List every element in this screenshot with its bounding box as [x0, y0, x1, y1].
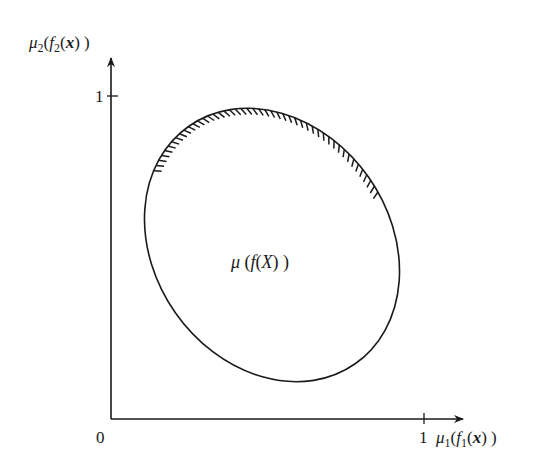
hatch-mark	[364, 175, 367, 182]
x-axis	[111, 413, 463, 424]
feasible-region	[92, 59, 452, 432]
hatch-mark	[175, 138, 183, 141]
hatch-mark	[367, 180, 371, 187]
hatch-mark	[323, 133, 324, 141]
hatch-mark	[343, 149, 344, 157]
hatch-mark	[184, 130, 191, 133]
hatch-mark	[213, 114, 219, 119]
y-axis-tick-label: 1	[95, 87, 104, 106]
hatch-mark	[224, 111, 230, 116]
hatch-mark	[188, 127, 195, 131]
hatch-mark	[373, 192, 378, 199]
hatch-mark	[229, 110, 235, 116]
hatch-mark	[352, 159, 354, 167]
hatch-mark	[179, 134, 187, 137]
hatch-mark	[159, 160, 167, 161]
hatch-mark	[172, 142, 180, 144]
hatch-mark	[208, 116, 215, 121]
hatch-mark	[360, 169, 363, 177]
hatch-mark	[165, 151, 173, 153]
hatch-mark	[318, 129, 319, 137]
hatch-mark	[198, 121, 205, 125]
hatch-mark	[193, 124, 200, 128]
hatch-mark	[168, 146, 176, 148]
hatch-mark	[356, 164, 359, 172]
hatch-mark	[241, 109, 246, 115]
hatch-mark	[162, 155, 170, 156]
membership-space-diagram: 0 1 1 μ2(f2(x) ) μ1(f1(x) ) μ (f(X) )	[0, 0, 550, 475]
x-axis-tick-label: 1	[419, 428, 428, 447]
region-boundary	[92, 59, 452, 432]
origin-label: 0	[96, 428, 105, 447]
hatch-mark	[370, 186, 374, 193]
y-axis-label: μ2(f2(x) )	[28, 33, 90, 55]
region-label: μ (f(X) )	[230, 252, 289, 273]
hatch-mark	[218, 112, 224, 117]
hatch-mark	[156, 166, 164, 167]
x-axis-label: μ1(f1(x) )	[435, 428, 497, 450]
hatch-mark	[235, 109, 241, 115]
pareto-hatching	[154, 108, 378, 198]
hatch-mark	[247, 108, 252, 114]
hatch-mark	[348, 154, 350, 162]
hatch-mark	[203, 118, 210, 122]
hatch-mark	[339, 145, 340, 153]
y-axis	[107, 58, 118, 419]
hatch-mark	[154, 171, 162, 172]
